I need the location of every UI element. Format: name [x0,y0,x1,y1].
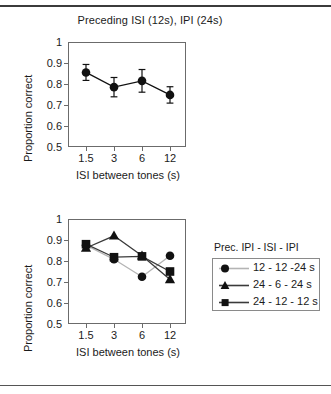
chart-panel-bottom: Proportion correct 1 0.9 0.8 0.7 0.6 0.5… [0,200,331,385]
data-point-circle [82,68,91,77]
bottom-divider-rule [0,385,331,386]
data-point-circle [138,272,147,281]
legend-item-square[interactable]: 24 - 12 - 12 s [213,294,319,311]
series-layer-top [0,14,331,194]
legend-label: 24 - 6 - 24 s [253,278,312,290]
data-point-circle [110,83,119,92]
top-divider-rule [0,5,331,7]
data-point-square [166,267,175,276]
legend-marker-square-icon [217,294,251,311]
series-line [86,236,170,280]
legend-box: 12 - 12 -24 s 24 - 6 - 24 s 24 - 12 - 12… [212,258,320,311]
data-point-circle [166,91,175,100]
series-line [86,72,170,94]
legend-item-triangle[interactable]: 24 - 6 - 24 s [213,277,319,294]
legend-label: 24 - 12 - 12 s [253,295,318,307]
data-point-square [82,240,91,249]
legend-marker-circle-icon [217,260,251,277]
legend-label: 12 - 12 -24 s [253,261,315,273]
data-point-circle [166,251,175,260]
data-point-square [138,252,147,261]
data-point-triangle [109,230,119,239]
legend-item-circle[interactable]: 12 - 12 -24 s [213,260,319,277]
legend-title: Prec. IPI - ISI - IPI [214,241,299,253]
figure-panel: Preceding ISI (12s), IPI (24s) Proportio… [0,0,331,394]
legend-marker-triangle-icon [217,277,251,294]
chart-panel-top: Preceding ISI (12s), IPI (24s) Proportio… [0,14,331,194]
data-point-square [110,253,119,262]
data-point-circle [138,77,147,86]
